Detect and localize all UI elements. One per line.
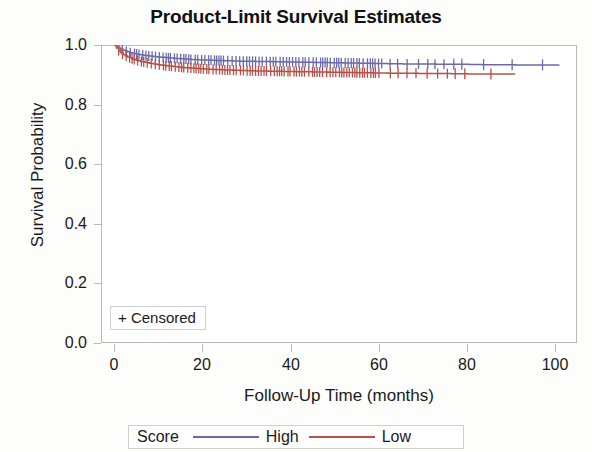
censored-legend: + Censored (110, 306, 206, 330)
y-tick-mark (94, 283, 101, 284)
survival-curves (101, 45, 577, 343)
x-tick-mark (555, 344, 556, 352)
x-tick-label: 0 (84, 356, 144, 374)
x-tick-label: 60 (349, 356, 409, 374)
x-axis-label: Follow-Up Time (months) (101, 386, 577, 406)
x-tick-mark (291, 344, 292, 352)
legend-label-high: High (266, 428, 299, 446)
y-tick-mark (94, 343, 101, 344)
y-tick-mark (94, 224, 101, 225)
y-tick-label: 0.2 (41, 274, 87, 292)
score-legend: Score High Low (128, 425, 464, 449)
x-tick-label: 100 (525, 356, 585, 374)
y-tick-label: 1.0 (41, 36, 87, 54)
y-tick-mark (94, 45, 101, 46)
y-tick-label: 0.6 (41, 155, 87, 173)
x-tick-label: 20 (172, 356, 232, 374)
legend-swatch-high (193, 436, 259, 438)
x-tick-mark (114, 344, 115, 352)
y-tick-mark (94, 164, 101, 165)
x-tick-mark (379, 344, 380, 352)
legend-label-low: Low (382, 428, 411, 446)
legend-title: Score (137, 428, 179, 446)
legend-swatch-low (309, 436, 375, 438)
x-tick-label: 40 (261, 356, 321, 374)
legend-entry-low: Low (309, 428, 411, 446)
y-tick-label: 0.0 (41, 334, 87, 352)
chart-canvas: Product-Limit Survival Estimates Surviva… (0, 0, 592, 452)
legend-entry-high: High (193, 428, 299, 446)
page-title: Product-Limit Survival Estimates (0, 6, 592, 28)
x-tick-label: 80 (437, 356, 497, 374)
x-tick-mark (467, 344, 468, 352)
y-tick-mark (94, 105, 101, 106)
x-tick-mark (202, 344, 203, 352)
y-tick-label: 0.8 (41, 96, 87, 114)
y-axis-label: Survival Probability (28, 45, 48, 305)
y-tick-label: 0.4 (41, 215, 87, 233)
